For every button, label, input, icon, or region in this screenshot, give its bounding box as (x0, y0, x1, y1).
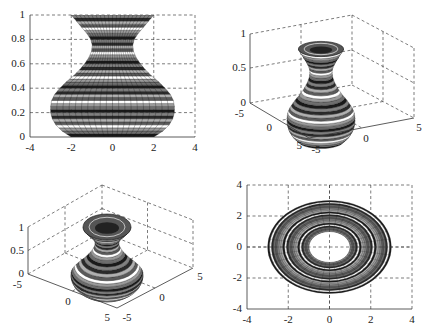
plot1-xtick: -4 (25, 141, 35, 153)
plot-side-view: 0 0.2 0.4 0.6 0.8 1 -4 -2 0 2 4 (11, 8, 198, 153)
plot4-x-ticks: -4 -2 0 2 4 (242, 313, 415, 325)
plot2-ytick: 5 (297, 139, 303, 151)
plot1-ytick: 0.2 (11, 106, 25, 118)
plot1-x-ticks: -4 -2 0 2 4 (25, 141, 198, 153)
plot-3d-view-1: 0 0.5 1 -5 0 5 -5 0 5 (232, 15, 422, 155)
vase-surface-3d-1 (287, 41, 355, 148)
plot3-ztick: 1 (19, 221, 25, 233)
plot1-xtick: 0 (110, 141, 116, 153)
plot4-xtick: 4 (409, 313, 415, 325)
plot4-y-ticks: -4 -2 0 2 4 (233, 178, 243, 314)
plot1-ytick: 0.4 (11, 81, 25, 93)
plot3-xtick: -5 (122, 311, 132, 323)
plot4-xtick: 2 (368, 313, 374, 325)
plot1-y-ticks: 0 0.2 0.4 0.6 0.8 1 (11, 8, 25, 142)
plot1-xtick: -2 (67, 141, 76, 153)
plot2-xtick: -5 (311, 143, 321, 155)
plot3-ytick: -5 (13, 278, 23, 290)
plot2-xtick: 5 (416, 121, 422, 133)
plot-top-view: -4 -2 0 2 4 -4 -2 0 2 4 (233, 178, 415, 325)
plot1-ytick: 1 (20, 8, 26, 20)
plot2-ztick: 1 (241, 27, 247, 39)
plot2-ztick: 0.5 (232, 61, 246, 73)
plot4-grid-over (247, 185, 412, 309)
plot4-ytick: 4 (237, 178, 243, 190)
plot1-ytick: 0.8 (11, 32, 25, 44)
vase-surface-side (51, 15, 175, 137)
plot4-ytick: 0 (237, 240, 243, 252)
figure-canvas: 0 0.2 0.4 0.6 0.8 1 -4 -2 0 2 4 (0, 0, 425, 335)
plot1-ytick: 0.6 (11, 57, 25, 69)
plot4-xtick: -4 (242, 313, 252, 325)
plot-3d-view-2: 0 0.5 1 -5 0 5 -5 0 5 (10, 185, 203, 323)
plot3-xtick: 5 (197, 270, 203, 282)
plot4-xtick: 0 (327, 313, 333, 325)
plot3-xtick: 0 (159, 291, 165, 303)
plot4-xtick: -2 (284, 313, 293, 325)
plot3-ztick: 0.5 (10, 244, 24, 256)
plot1-xtick: 2 (151, 141, 157, 153)
plot2-ytick: -5 (235, 107, 245, 119)
plot4-ytick: -4 (233, 302, 243, 314)
plot3-ytick: 5 (105, 311, 111, 323)
plot3-ytick: 0 (65, 295, 71, 307)
plot4-ytick: 2 (237, 209, 243, 221)
plot2-xtick: 0 (363, 132, 369, 144)
plot4-ytick: -2 (233, 271, 242, 283)
plot1-xtick: 4 (192, 141, 198, 153)
plot2-ytick: 0 (267, 121, 273, 133)
